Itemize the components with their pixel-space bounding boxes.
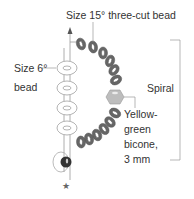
star-icon: ★ <box>62 181 70 191</box>
label-spiral: Spiral <box>147 82 174 95</box>
size6-beads <box>57 61 77 135</box>
label-bicone-line2: green <box>124 123 151 136</box>
label-bicone-line3: bicone, <box>124 138 158 151</box>
label-size6-line1: Size 6° <box>14 62 47 75</box>
label-three-cut-bead: Size 15° three-cut bead <box>66 9 176 22</box>
bead-spiral-diagram: ★ <box>0 0 194 199</box>
label-bicone-line1: Yellow- <box>124 108 157 121</box>
label-size6-line2: bead <box>14 81 37 94</box>
arrow-up-icon <box>68 27 73 34</box>
label-bicone-line4: 3 mm <box>124 153 150 166</box>
